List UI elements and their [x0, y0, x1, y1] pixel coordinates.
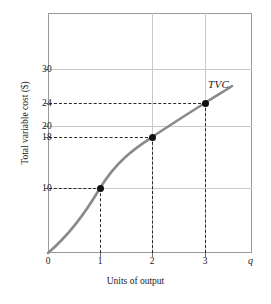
data-point-3 [202, 100, 209, 107]
figure-total-variable-cost: TVC 30 24 20 18 10 0 1 2 3 q Total varia… [0, 0, 271, 304]
plot-area [48, 13, 252, 253]
guide-v-1 [100, 188, 101, 253]
gridline-y-30 [48, 69, 252, 70]
x-axis-title: Units of output [0, 276, 271, 286]
xtick-label-2: 2 [142, 256, 162, 267]
xtick-label-3: 3 [195, 256, 215, 267]
guide-h-10 [49, 188, 101, 189]
guide-h-24 [49, 103, 206, 104]
data-point-1 [97, 185, 104, 192]
guide-h-18 [49, 137, 153, 138]
series-label-tvc: TVC [208, 78, 229, 90]
xtick-label-0: 0 [38, 256, 58, 267]
y-axis-title: Total variable cost ($) [20, 48, 30, 198]
xtick-label-1: 1 [90, 256, 110, 267]
guide-v-2 [152, 137, 153, 253]
data-point-2 [149, 134, 156, 141]
x-axis-variable-q: q [248, 255, 253, 266]
gridline-y-20 [48, 126, 252, 127]
guide-v-3 [205, 103, 206, 253]
